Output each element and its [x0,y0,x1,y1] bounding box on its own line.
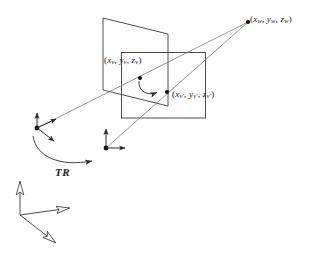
world-coordinate-frame [35,113,56,141]
transform-label: TR [55,166,70,178]
transform-arrow [33,136,92,163]
view-point-label: (xv, yv, zv) [104,55,142,65]
viewing-transformation-figure: (xw, yw, zw) (xv, yv, zv) (xv', yv', zv'… [0,0,316,258]
view-point-prime-marker [165,90,169,94]
transform-curve [33,136,92,163]
camera-coordinate-frame [20,181,70,243]
camera-frame-axis-x [20,208,70,215]
ray-to-world-origin [37,22,248,128]
world-point-close-paren: ) [289,14,292,24]
world-point-label: (xw, yw, zw) [250,14,292,24]
view-point-marker [138,76,142,80]
view-coordinate-frame [104,129,125,150]
ray-to-view-origin [106,22,248,148]
camera-frame-axis-z [20,215,56,243]
view-point-prime-close-paren: ) [211,89,214,99]
point-mapping-curve [139,81,157,94]
view-point-prime-label: (xv', yv', zv') [172,89,214,99]
figure-canvas [0,0,316,258]
world-frame-axis-right [37,119,56,128]
world-frame-axis-depth [37,128,54,141]
point-mapping-arrow [139,81,157,94]
projection-rays [37,22,248,148]
view-point-close-paren: ) [138,55,141,65]
